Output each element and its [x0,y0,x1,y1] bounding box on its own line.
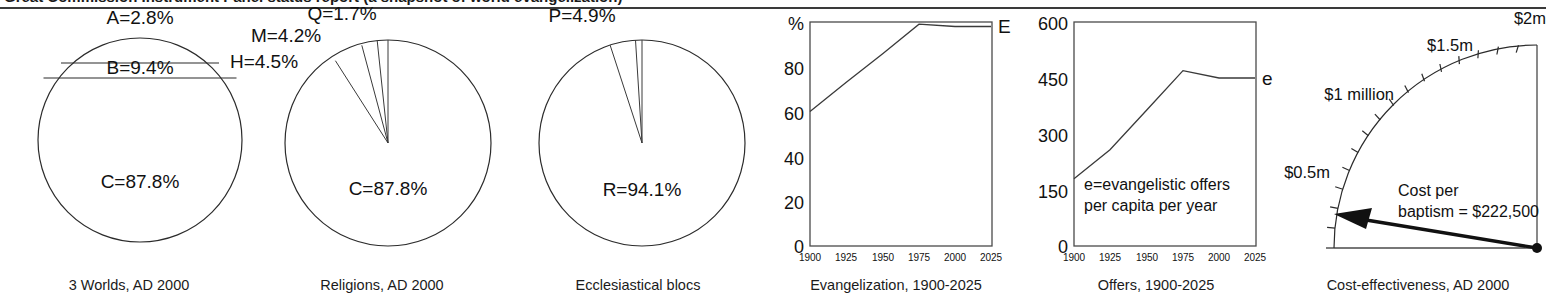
ytick-600: 600 [1038,14,1068,34]
label-h: H=4.5% [230,51,298,72]
gauge-label-1-5m: $1.5m [1427,36,1473,54]
panel-three-worlds: A=2.8% B=9.4% C=87.8% 3 Worlds, AD 2000 [0,0,258,303]
ytick-percent: % [788,14,804,34]
instrument-panel-figure: Great Commission Instrument Panel status… [0,0,1546,303]
xtick-1975: 1975 [1172,252,1195,263]
three-worlds-chart: A=2.8% B=9.4% C=87.8% [0,0,258,270]
series-endpoint-label-e: e [1262,68,1273,89]
panel-evangelization: % 80 60 40 20 0 1900 1925 1950 1975 2000… [770,0,1022,303]
gauge-label-2m: $2m [1514,9,1546,27]
xtick-1950: 1950 [1136,252,1159,263]
ytick-450: 450 [1038,70,1068,90]
ytick-150: 150 [1038,182,1068,202]
religions-chart: Q=1.7% M=4.2% H=4.5% C=87.8% [258,0,506,270]
xtick-1925: 1925 [835,252,858,263]
xtick-2000: 2000 [944,252,967,263]
panel-ecclesiastical-blocs: P=4.9% R=94.1% Ecclesiastical blocs [506,0,770,303]
caption-offers: Offers, 1900-2025 [1022,277,1290,293]
xtick-1925: 1925 [1099,252,1122,263]
label-a: A=2.8% [106,7,173,28]
offers-note-line2: per capita per year [1084,197,1218,214]
caption-evangelization: Evangelization, 1900-2025 [770,277,1022,293]
caption-cost-effectiveness: Cost-effectiveness, AD 2000 [1290,277,1546,293]
xtick-1950: 1950 [872,252,895,263]
label-c: C=87.8% [101,171,180,192]
ytick-80: 80 [784,59,804,79]
gauge-label-0-5m: $0.5m [1284,163,1330,181]
ecclesiastical-blocs-chart: P=4.9% R=94.1% [506,0,770,270]
caption-ecclesiastical-blocs: Ecclesiastical blocs [506,277,770,293]
plot-frame [810,22,992,246]
gauge-needle-arrowhead [1334,208,1372,229]
panel-religions: Q=1.7% M=4.2% H=4.5% C=87.8% Religions, … [258,0,506,303]
offers-chart: 600 450 300 150 0 1900 1925 1950 1975 20… [1022,0,1290,270]
panel-offers: 600 450 300 150 0 1900 1925 1950 1975 20… [1022,0,1290,303]
ytick-60: 60 [784,104,804,124]
panel-cost-effectiveness: $0.5m $1 million $1.5m $2m Cost per bapt… [1290,0,1546,303]
series-endpoint-label-E: E [998,16,1011,37]
pie-divider-h [335,61,388,143]
label-c: C=87.8% [349,178,428,199]
label-m: M=4.2% [251,25,321,46]
label-p: P=4.9% [548,5,615,26]
caption-religions: Religions, AD 2000 [258,277,506,293]
series-evangelization [810,24,991,111]
gauge-pivot [1532,243,1542,253]
ytick-40: 40 [784,149,804,169]
xtick-2025: 2025 [1244,252,1267,263]
xtick-2000: 2000 [1208,252,1231,263]
label-q: Q=1.7% [307,3,376,24]
offers-note-line1: e=evangelistic offers [1084,176,1230,193]
ytick-20: 20 [784,193,804,213]
label-r: R=94.1% [603,179,682,200]
gauge-note-line1: Cost per [1398,182,1459,199]
gauge-needle [1360,219,1537,248]
gauge-label-1m: $1 million [1324,85,1394,103]
label-b: B=9.4% [106,57,173,78]
ytick-300: 300 [1038,126,1068,146]
caption-three-worlds: 3 Worlds, AD 2000 [0,277,258,293]
xtick-2025: 2025 [980,252,1003,263]
xtick-1900: 1900 [799,252,822,263]
xtick-1975: 1975 [908,252,931,263]
gauge-note-line2: baptism = $222,500 [1398,203,1539,220]
pie-divider-m [362,45,388,143]
cost-effectiveness-gauge: $0.5m $1 million $1.5m $2m Cost per bapt… [1290,0,1546,270]
series-offers [1074,71,1255,179]
evangelization-chart: % 80 60 40 20 0 1900 1925 1950 1975 2000… [770,0,1022,270]
pie-divider-q [377,41,388,143]
xtick-1900: 1900 [1063,252,1086,263]
